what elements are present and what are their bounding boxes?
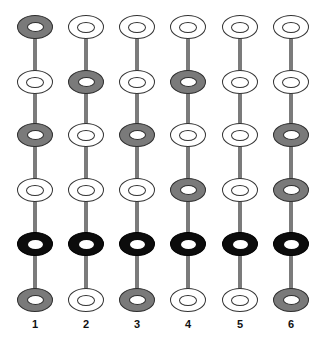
ring-icon bbox=[68, 70, 104, 94]
ring-hole bbox=[283, 185, 300, 195]
ring-hole bbox=[231, 130, 249, 141]
column-label: 4 bbox=[168, 318, 208, 330]
ring-column-1: 1 bbox=[15, 0, 55, 341]
ring-icon bbox=[222, 70, 258, 94]
ring-column-2: 2 bbox=[66, 0, 106, 341]
ring-hole bbox=[77, 185, 95, 196]
ring-hole bbox=[179, 22, 197, 33]
ring-icon bbox=[119, 232, 155, 256]
ring-hole bbox=[179, 295, 197, 306]
ring-hole bbox=[77, 295, 95, 306]
ring-icon bbox=[222, 123, 258, 147]
ring-icon bbox=[273, 288, 309, 312]
ring-icon bbox=[68, 178, 104, 202]
column-label: 1 bbox=[15, 318, 55, 330]
ring-hole bbox=[79, 240, 94, 249]
ring-hole bbox=[231, 295, 249, 306]
ring-icon bbox=[17, 178, 53, 202]
ring-hole bbox=[78, 77, 95, 87]
ring-hole bbox=[180, 185, 197, 195]
ring-hole bbox=[231, 185, 249, 196]
ring-icon bbox=[170, 70, 206, 94]
ring-icon bbox=[170, 288, 206, 312]
ring-icon bbox=[119, 178, 155, 202]
ring-icon bbox=[68, 123, 104, 147]
ring-icon bbox=[170, 178, 206, 202]
ring-hole bbox=[233, 240, 248, 249]
ring-icon bbox=[222, 15, 258, 39]
ring-hole bbox=[129, 295, 146, 305]
ring-icon bbox=[222, 178, 258, 202]
ring-icon bbox=[17, 70, 53, 94]
ring-hole bbox=[180, 77, 197, 87]
ring-hole bbox=[27, 22, 44, 32]
ring-icon bbox=[17, 123, 53, 147]
ring-hole bbox=[282, 77, 300, 88]
ring-icon bbox=[222, 232, 258, 256]
ring-hole bbox=[77, 22, 95, 33]
column-label: 2 bbox=[66, 318, 106, 330]
ring-icon bbox=[119, 70, 155, 94]
ring-icon bbox=[68, 232, 104, 256]
ring-icon bbox=[17, 232, 53, 256]
ring-icon bbox=[68, 288, 104, 312]
ring-hole bbox=[77, 130, 95, 141]
ring-hole bbox=[27, 130, 44, 140]
ring-icon bbox=[222, 288, 258, 312]
ring-hole bbox=[181, 240, 196, 249]
ring-icon bbox=[170, 232, 206, 256]
ring-column-3: 3 bbox=[117, 0, 157, 341]
ring-icon bbox=[68, 15, 104, 39]
column-label: 3 bbox=[117, 318, 157, 330]
ring-hole bbox=[128, 185, 146, 196]
ring-icon bbox=[17, 15, 53, 39]
ring-hole bbox=[283, 295, 300, 305]
ring-hole bbox=[28, 240, 43, 249]
ring-hole bbox=[130, 240, 145, 249]
ring-icon bbox=[273, 178, 309, 202]
ring-icon bbox=[170, 15, 206, 39]
ring-hole bbox=[27, 295, 44, 305]
ring-hole bbox=[179, 130, 197, 141]
ring-icon bbox=[17, 288, 53, 312]
ring-column-4: 4 bbox=[168, 0, 208, 341]
ring-hole bbox=[26, 185, 44, 196]
ring-icon bbox=[119, 123, 155, 147]
ring-icon bbox=[273, 232, 309, 256]
ring-hole bbox=[129, 130, 146, 140]
ring-icon bbox=[273, 123, 309, 147]
column-label: 6 bbox=[271, 318, 311, 330]
ring-hole bbox=[231, 77, 249, 88]
ring-icon bbox=[119, 15, 155, 39]
ring-column-6: 6 bbox=[271, 0, 311, 341]
ring-icon bbox=[273, 15, 309, 39]
ring-hole bbox=[128, 22, 146, 33]
column-label: 5 bbox=[220, 318, 260, 330]
ring-hole bbox=[128, 77, 146, 88]
ring-icon bbox=[119, 288, 155, 312]
ring-hole bbox=[284, 240, 299, 249]
ring-icon bbox=[273, 70, 309, 94]
ring-hole bbox=[283, 130, 300, 140]
ring-hole bbox=[231, 22, 249, 33]
ring-column-5: 5 bbox=[220, 0, 260, 341]
ring-icon bbox=[170, 123, 206, 147]
ring-hole bbox=[282, 22, 300, 33]
ring-hole bbox=[26, 77, 44, 88]
